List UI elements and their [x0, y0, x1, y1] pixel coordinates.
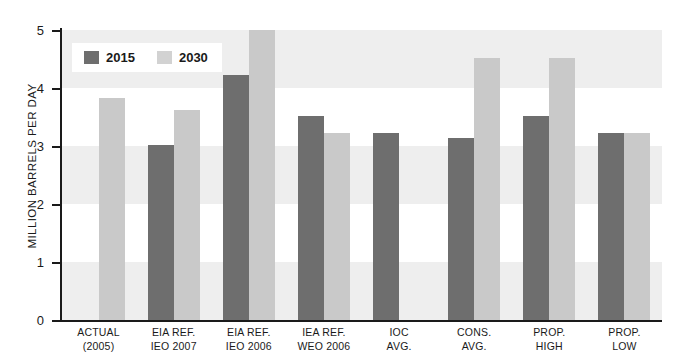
bar-group	[362, 30, 437, 320]
x-axis-label-line: IOC	[362, 326, 437, 340]
bar-group	[286, 30, 361, 320]
y-tick-label-2: 2	[10, 197, 44, 212]
chart-legend: 2015 2030	[72, 43, 222, 72]
x-axis-label-line: PROP.	[512, 326, 587, 340]
legend-swatch-2015	[84, 51, 99, 64]
bar-group	[211, 30, 286, 320]
x-axis-label-1: EIA REF.IEO 2007	[136, 326, 211, 353]
x-axis-line	[60, 320, 662, 322]
x-axis-label-6: PROP.HIGH	[512, 326, 587, 353]
bar-group	[437, 30, 512, 320]
bar-group	[61, 30, 136, 320]
bar-2015	[223, 75, 249, 320]
x-axis-label-line: WEO 2006	[286, 340, 361, 354]
bar-2030	[624, 133, 650, 320]
x-axis-label-line: IEA REF.	[286, 326, 361, 340]
y-tick-1	[52, 262, 61, 264]
bar-2030	[549, 58, 575, 320]
legend-label-2030: 2030	[179, 50, 208, 65]
x-axis-label-line: EIA REF.	[136, 326, 211, 340]
bar-2030	[249, 30, 275, 320]
x-axis-label-line: (2005)	[61, 340, 136, 354]
x-axis-label-line: AVG.	[362, 340, 437, 354]
y-tick-0	[52, 320, 61, 322]
y-tick-label-5: 5	[10, 23, 44, 38]
y-tick-5	[52, 30, 61, 32]
bar-2015	[598, 133, 624, 320]
y-tick-label-0: 0	[10, 313, 44, 328]
x-axis-label-3: IEA REF.WEO 2006	[286, 326, 361, 353]
y-tick-4	[52, 88, 61, 90]
bar-2015	[298, 116, 324, 320]
x-axis-label-line: IEO 2007	[136, 340, 211, 354]
bar-2015	[373, 133, 399, 320]
legend-label-2015: 2015	[106, 50, 135, 65]
bar-groups	[61, 30, 662, 320]
x-axis-label-line: CONS.	[437, 326, 512, 340]
bar-2015	[448, 138, 474, 320]
bar-2030	[99, 98, 125, 320]
bar-group	[512, 30, 587, 320]
bar-group	[136, 30, 211, 320]
x-axis-label-7: PROP.LOW	[587, 326, 662, 353]
x-axis-label-2: EIA REF.IEO 2006	[211, 326, 286, 353]
legend-swatch-2030	[157, 51, 172, 64]
y-tick-label-1: 1	[10, 255, 44, 270]
x-axis-label-5: CONS.AVG.	[437, 326, 512, 353]
bar-group	[587, 30, 662, 320]
bar-chart: MILLION BARRELS PER DAY 012345 2015 2030…	[0, 0, 673, 363]
x-axis-label-0: ACTUAL(2005)	[61, 326, 136, 353]
x-axis-label-line: PROP.	[587, 326, 662, 340]
y-tick-3	[52, 146, 61, 148]
x-axis-label-line: IEO 2006	[211, 340, 286, 354]
y-tick-label-3: 3	[10, 139, 44, 154]
bar-2030	[174, 110, 200, 320]
legend-entry-2015: 2015	[84, 50, 135, 65]
x-axis-label-line: LOW	[587, 340, 662, 354]
x-axis-label-line: ACTUAL	[61, 326, 136, 340]
y-tick-label-4: 4	[10, 81, 44, 96]
x-axis-label-4: IOCAVG.	[362, 326, 437, 353]
y-tick-2	[52, 204, 61, 206]
legend-entry-2030: 2030	[157, 50, 208, 65]
x-axis-category-labels: ACTUAL(2005)EIA REF.IEO 2007EIA REF.IEO …	[61, 326, 662, 353]
x-axis-label-line: EIA REF.	[211, 326, 286, 340]
bar-2015	[148, 145, 174, 320]
bar-2015	[523, 116, 549, 320]
x-axis-label-line: AVG.	[437, 340, 512, 354]
x-axis-label-line: HIGH	[512, 340, 587, 354]
bar-2030	[474, 58, 500, 320]
bar-2030	[324, 133, 350, 320]
